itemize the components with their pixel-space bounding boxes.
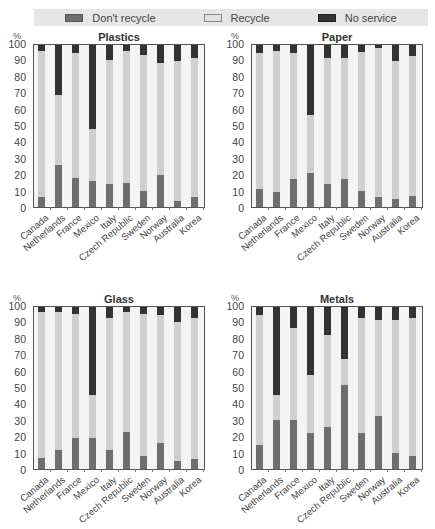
y-tick-label: 0 bbox=[222, 202, 244, 214]
stacked-bar bbox=[140, 307, 147, 469]
y-tick-label: 60 bbox=[4, 104, 26, 116]
no-service-segment bbox=[157, 307, 164, 315]
no-service-segment bbox=[256, 307, 263, 315]
x-tick-mark bbox=[421, 207, 422, 210]
stacked-bar bbox=[72, 45, 79, 207]
dont-recycle-segment bbox=[290, 420, 297, 469]
no-service-segment bbox=[341, 45, 348, 58]
y-tick-label: 20 bbox=[222, 169, 244, 181]
recycle-segment bbox=[157, 63, 164, 175]
y-tick-label: 90 bbox=[4, 54, 26, 66]
y-tick-label: 70 bbox=[4, 349, 26, 361]
y-tick-label: 10 bbox=[4, 186, 26, 198]
recycle-segment bbox=[307, 375, 314, 433]
plot-area bbox=[251, 44, 423, 208]
x-tick-mark bbox=[101, 207, 102, 210]
x-tick-mark bbox=[268, 207, 269, 210]
x-tick-mark bbox=[135, 469, 136, 472]
chart-title: Metals bbox=[251, 293, 423, 305]
x-tick-mark bbox=[50, 469, 51, 472]
no-service-segment bbox=[358, 307, 365, 318]
recycle-segment bbox=[191, 58, 198, 197]
stacked-bar bbox=[140, 45, 147, 207]
recycle-segment bbox=[174, 322, 181, 461]
x-tick-mark bbox=[302, 469, 303, 472]
recycle-segment bbox=[324, 335, 331, 427]
x-tick-mark bbox=[203, 469, 204, 472]
stacked-bar bbox=[157, 45, 164, 207]
recycle-segment bbox=[341, 359, 348, 385]
recycle-segment bbox=[290, 328, 297, 420]
x-tick-mark bbox=[353, 207, 354, 210]
no-service-segment bbox=[157, 45, 164, 63]
x-tick-mark bbox=[302, 207, 303, 210]
y-tick-label: 30 bbox=[222, 415, 244, 427]
dont-recycle-segment bbox=[307, 433, 314, 469]
legend-label: No service bbox=[345, 12, 397, 24]
y-tick-label: 0 bbox=[4, 202, 26, 214]
stacked-bar bbox=[106, 307, 113, 469]
no-service-segment bbox=[324, 45, 331, 58]
recycle-segment bbox=[290, 53, 297, 179]
x-tick-mark bbox=[370, 207, 371, 210]
y-tick-label: 30 bbox=[222, 153, 244, 165]
recycle-segment bbox=[55, 312, 62, 450]
recycle-segment bbox=[55, 95, 62, 165]
recycle-segment bbox=[174, 61, 181, 200]
recycle-segment bbox=[273, 395, 280, 421]
x-tick-mark bbox=[186, 207, 187, 210]
stacked-bar bbox=[191, 307, 198, 469]
chart-legend: Don't recycle Recycle No service bbox=[34, 9, 428, 26]
y-tick-label: 30 bbox=[4, 415, 26, 427]
x-tick-mark bbox=[152, 469, 153, 472]
x-tick-mark bbox=[84, 469, 85, 472]
dont-recycle-segment bbox=[375, 416, 382, 469]
y-tick-label: 80 bbox=[222, 333, 244, 345]
no-service-segment bbox=[409, 45, 416, 56]
y-tick-label: 100 bbox=[4, 300, 26, 312]
y-tick-label: 90 bbox=[4, 316, 26, 328]
no-service-segment bbox=[375, 307, 382, 320]
chart-metals: %Metals1009080706050403020100CanadaNethe… bbox=[218, 293, 433, 529]
no-service-segment bbox=[307, 45, 314, 115]
stacked-bar bbox=[106, 45, 113, 207]
x-tick-mark bbox=[353, 469, 354, 472]
dont-recycle-segment bbox=[191, 459, 198, 469]
y-tick-label: 100 bbox=[222, 38, 244, 50]
plot-area bbox=[33, 306, 205, 470]
no-service-segment bbox=[72, 45, 79, 53]
dont-recycle-segment bbox=[290, 179, 297, 207]
stacked-bar bbox=[409, 307, 416, 469]
dont-recycle-segment bbox=[72, 178, 79, 207]
stacked-bar bbox=[123, 45, 130, 207]
chart-paper: %Paper1009080706050403020100CanadaNether… bbox=[218, 31, 433, 296]
stacked-bar bbox=[174, 45, 181, 207]
y-tick-label: 90 bbox=[222, 316, 244, 328]
x-tick-mark bbox=[404, 207, 405, 210]
y-tick-label: 60 bbox=[4, 366, 26, 378]
x-tick-mark bbox=[336, 207, 337, 210]
x-tick-mark bbox=[118, 469, 119, 472]
recycle-segment bbox=[191, 318, 198, 459]
no-service-segment bbox=[273, 307, 280, 394]
dont-recycle-segment bbox=[341, 385, 348, 469]
recycle-segment bbox=[324, 58, 331, 184]
y-tick-label: 50 bbox=[222, 120, 244, 132]
y-tick-label: 40 bbox=[222, 136, 244, 148]
no-service-segment bbox=[256, 45, 263, 53]
y-tick-label: 0 bbox=[4, 464, 26, 476]
dont-recycle-segment bbox=[157, 443, 164, 469]
recycle-segment bbox=[106, 60, 113, 185]
dont-recycle-segment bbox=[89, 438, 96, 469]
chart-plastics: %Plastics1009080706050403020100CanadaNet… bbox=[0, 31, 215, 296]
y-tick-label: 10 bbox=[222, 448, 244, 460]
no-service-segment bbox=[89, 307, 96, 394]
dont-recycle-segment bbox=[324, 184, 331, 207]
x-tick-mark bbox=[50, 207, 51, 210]
recycle-segment bbox=[256, 53, 263, 189]
no-service-segment bbox=[174, 45, 181, 61]
recycle-segment bbox=[409, 56, 416, 195]
y-tick-label: 20 bbox=[4, 169, 26, 181]
no-service-segment bbox=[290, 45, 297, 53]
no-service-segment bbox=[55, 45, 62, 95]
